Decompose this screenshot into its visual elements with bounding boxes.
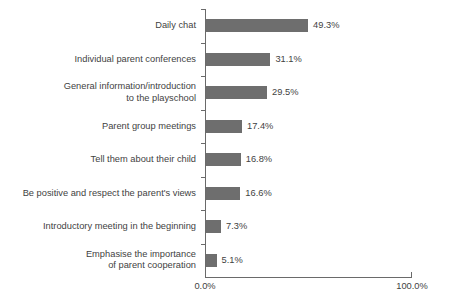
value-axis-line	[205, 277, 412, 278]
bar-row: General information/introduction to the …	[0, 76, 450, 110]
bar-value-label: 16.8%	[246, 153, 272, 166]
bar-group: 7.3%	[206, 220, 247, 233]
bar-row: Daily chat49.3%	[0, 9, 450, 43]
bar-value-label: 31.1%	[275, 53, 301, 66]
category-tick	[201, 43, 206, 44]
bar-row: Emphasise the importance of parent coope…	[0, 244, 450, 278]
bar-group: 49.3%	[206, 19, 339, 32]
category-tick	[201, 110, 206, 111]
xtick-label-min: 0.0%	[194, 281, 215, 291]
category-tick-top	[201, 9, 206, 10]
category-label: Emphasise the importance of parent coope…	[6, 249, 196, 272]
bar	[206, 19, 308, 32]
bar-row: Parent group meetings17.4%	[0, 110, 450, 144]
xtick-label-max: 100.0%	[396, 281, 428, 291]
category-tick	[201, 76, 206, 77]
bar-group: 5.1%	[206, 254, 243, 267]
bar-value-label: 16.6%	[245, 187, 271, 200]
bar-value-label: 7.3%	[226, 220, 247, 233]
plot-area: Daily chat49.3%Individual parent confere…	[0, 0, 450, 305]
category-label: Individual parent conferences	[6, 54, 196, 65]
bar-chart: Daily chat49.3%Individual parent confere…	[0, 0, 450, 305]
bar-group: 31.1%	[206, 53, 302, 66]
category-label: General information/introduction to the …	[6, 81, 196, 104]
category-tick	[201, 177, 206, 178]
bar	[206, 187, 240, 200]
bar	[206, 153, 241, 166]
bar	[206, 53, 270, 66]
bar-row: Introductory meeting in the beginning7.3…	[0, 210, 450, 244]
bar-value-label: 49.3%	[313, 19, 339, 32]
category-label: Daily chat	[6, 20, 196, 31]
bar-value-label: 17.4%	[247, 120, 273, 133]
bar-group: 29.5%	[206, 86, 298, 99]
bar-value-label: 5.1%	[222, 254, 243, 267]
category-tick	[201, 143, 206, 144]
bar-group: 17.4%	[206, 120, 273, 133]
category-label: Introductory meeting in the beginning	[6, 221, 196, 232]
bar-row: Tell them about their child16.8%	[0, 143, 450, 177]
bar-rows: Daily chat49.3%Individual parent confere…	[0, 9, 450, 277]
bar	[206, 220, 221, 233]
bar-row: Individual parent conferences31.1%	[0, 43, 450, 77]
category-label: Tell them about their child	[6, 154, 196, 165]
category-tick	[201, 210, 206, 211]
bar-value-label: 29.5%	[272, 86, 298, 99]
bar	[206, 254, 217, 267]
bar-group: 16.6%	[206, 187, 272, 200]
category-label: Parent group meetings	[6, 121, 196, 132]
category-tick	[201, 244, 206, 245]
category-label: Be positive and respect the parent's vie…	[6, 188, 196, 199]
bar-group: 16.8%	[206, 153, 272, 166]
bar	[206, 120, 242, 133]
bar	[206, 86, 267, 99]
bar-row: Be positive and respect the parent's vie…	[0, 177, 450, 211]
